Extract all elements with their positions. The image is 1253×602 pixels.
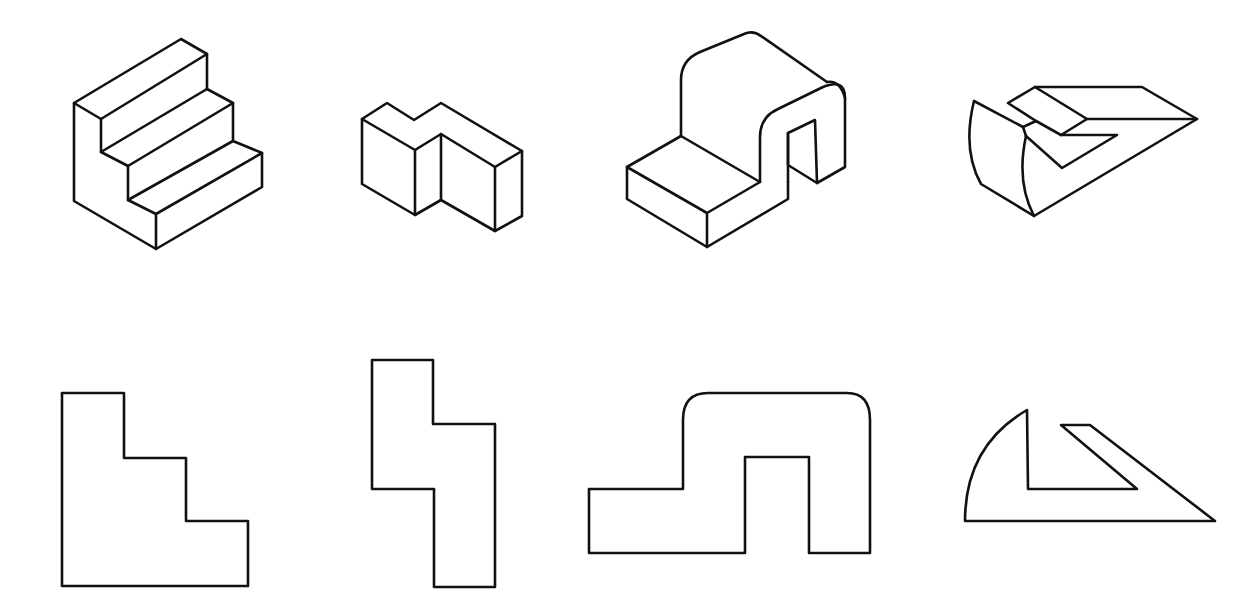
stair-profile (62, 393, 248, 586)
stair-block-isometric (74, 39, 262, 249)
offset-block-isometric (362, 103, 522, 231)
wedge-profile (965, 410, 1215, 521)
arch-profile (589, 393, 870, 553)
offset-profile (372, 360, 495, 587)
arch-block-isometric (627, 32, 845, 247)
diagram-canvas (0, 0, 1253, 602)
wedge-block-isometric (969, 87, 1197, 216)
